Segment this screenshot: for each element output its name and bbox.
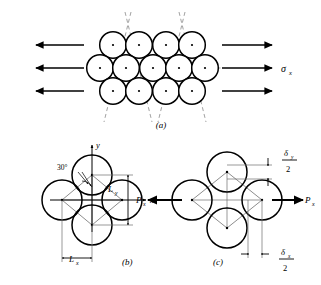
panel-c-caption: (c) xyxy=(213,257,223,267)
delta-y-subscript: y xyxy=(290,154,294,160)
panel-a-caption: (a) xyxy=(156,120,167,130)
panel-a: σ x (a) xyxy=(36,12,292,130)
delta-x-numerator: δ xyxy=(281,247,286,257)
sigma-x-label: σ x xyxy=(281,63,292,76)
panel-b-caption: (b) xyxy=(122,257,133,267)
sigma-symbol: σ xyxy=(281,63,287,74)
load-label-left-c: P x xyxy=(135,195,146,207)
tension-arrows-left xyxy=(36,45,84,91)
panel-c: P x P x δ y 2 δ x 2 xyxy=(135,148,315,273)
delta-y-numerator: δ xyxy=(284,148,289,158)
figure-container: σ x (a) x y xyxy=(0,0,321,285)
lx-subscript: x xyxy=(75,260,79,266)
dimension-lx: L x xyxy=(62,200,92,266)
px-right-subscript: x xyxy=(311,201,315,207)
load-label-right-c: P x xyxy=(304,195,315,207)
ly-label: L xyxy=(107,184,113,194)
y-axis-label-b: y xyxy=(95,140,100,150)
tension-arrows-right xyxy=(222,45,272,91)
cell-construction-lines-c xyxy=(192,172,262,228)
sigma-subscript: x xyxy=(288,69,292,76)
angle-label-b: 30° xyxy=(57,163,68,172)
technical-figure: σ x (a) x y xyxy=(0,0,321,285)
px-left-symbol: P xyxy=(135,195,142,205)
delta-x-denominator: 2 xyxy=(283,263,287,273)
px-right-symbol: P xyxy=(304,195,311,205)
delta-x-subscript: x xyxy=(287,253,291,259)
px-left-subscript: x xyxy=(142,201,146,207)
delta-y-denominator: 2 xyxy=(286,164,290,174)
lx-label: L xyxy=(68,254,74,264)
ly-subscript: y xyxy=(114,190,118,196)
